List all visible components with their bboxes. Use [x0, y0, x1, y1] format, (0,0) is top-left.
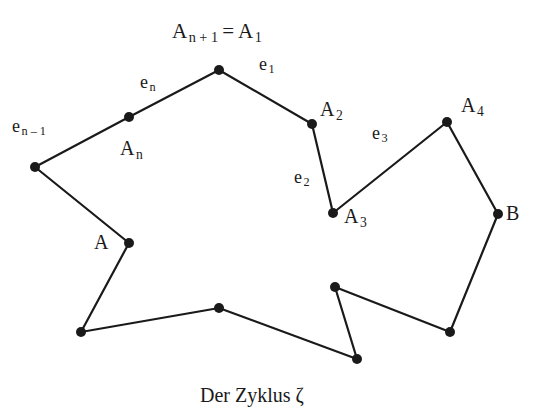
vertex-label-A-4-subscript: 4 [475, 104, 483, 119]
vertex-label-A-3-subscript: 3 [358, 215, 366, 230]
edge-e1 [219, 70, 312, 124]
edge-label-e-n: en [140, 73, 156, 94]
vertex-dot-A-4 [442, 117, 452, 127]
vertex-label-A-n: An [120, 138, 143, 161]
edge-label-e-3-base: e [372, 123, 380, 143]
vertex-label-A: A [94, 232, 108, 252]
vertex-label-A-3-base: A [344, 205, 358, 227]
vertex-dot-v-bottom-r [352, 354, 362, 364]
edge-label-e-2-base: e [294, 167, 302, 187]
title-base-2: A [238, 19, 253, 43]
edge-label-e-1-subscript: 1 [267, 62, 275, 76]
vertex-dot-A [124, 238, 134, 248]
vertex-dot-A-2 [307, 119, 317, 129]
edge-label-e-2: e2 [294, 168, 310, 189]
edge-rl-ml [335, 287, 450, 332]
edge-label-e-n-minus-1-subscript: n – 1 [20, 124, 46, 138]
edge-a4-b [447, 122, 498, 214]
vertex-dot-v-left [30, 162, 40, 172]
edge-label-e-1-base: e [259, 54, 267, 74]
vertex-dot-v-bottom-l [76, 327, 86, 337]
edge-e3 [333, 122, 447, 213]
edge-br-bm [219, 308, 357, 359]
vertex-label-A-2-subscript: 2 [334, 108, 342, 123]
vertex-label-A-n-subscript: n [134, 147, 142, 162]
top-equation-label: An + 1=A1 [172, 21, 262, 44]
vertex-label-B: B [506, 203, 519, 223]
vertex-dot-A-3 [328, 208, 338, 218]
vertex-dot-v-bottom-m [214, 303, 224, 313]
figure-caption: Der Zyklus ζ [200, 385, 304, 405]
vertex-dot-A-n [124, 112, 134, 122]
vertex-label-A-3: A3 [344, 206, 367, 229]
title-subscript-2: 1 [253, 29, 262, 45]
vertex-dot-v-right-low [445, 327, 455, 337]
vertex-label-B-base: B [506, 202, 519, 224]
edge-label-e-2-subscript: 2 [302, 175, 310, 189]
edge-bm-bl [81, 308, 219, 332]
edge-ml-br [335, 287, 357, 359]
edge-e2 [312, 124, 333, 213]
vertex-dot-B [493, 209, 503, 219]
edges-group [35, 70, 498, 359]
title-equals: = [218, 19, 238, 43]
vertex-dot-v-mid-low [330, 282, 340, 292]
edge-label-e-n-base: e [140, 72, 148, 92]
edge-label-e-1: e1 [259, 55, 275, 76]
edge-bl-a [81, 243, 129, 332]
vertex-label-A-4: A4 [461, 95, 484, 118]
edge-en-1 [35, 117, 129, 167]
figure-page: en – 1ene1e2e3AnA2A3A4BA An + 1=A1 Der Z… [0, 0, 550, 419]
edge-b-rl [450, 214, 498, 332]
edge-label-e-n-minus-1: en – 1 [12, 117, 46, 138]
edge-label-e-3-subscript: 3 [380, 131, 388, 145]
edge-label-e-n-subscript: n [148, 80, 156, 94]
edge-a-vl [35, 167, 129, 243]
vertex-label-A-n-base: A [120, 137, 134, 159]
edge-label-e-3: e3 [372, 124, 388, 145]
title-base-1: A [172, 19, 187, 43]
vertex-label-A-4-base: A [461, 94, 475, 116]
vertex-label-A-base: A [94, 231, 108, 253]
vertex-label-A-2: A2 [320, 99, 343, 122]
vertex-label-A-2-base: A [320, 98, 334, 120]
edge-label-e-n-minus-1-base: e [12, 116, 20, 136]
vertex-dot-A-n-plus-1 [214, 65, 224, 75]
title-subscript-1: n + 1 [187, 29, 218, 45]
cycle-diagram [0, 0, 550, 419]
vertices-group [30, 65, 503, 364]
